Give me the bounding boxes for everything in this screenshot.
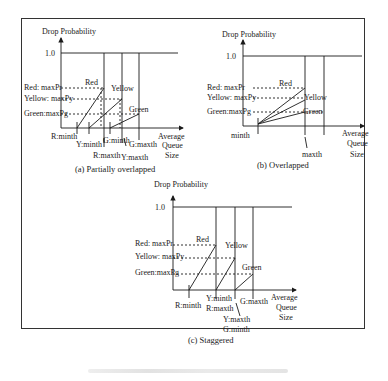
level-red-a: Red: maxPr xyxy=(24,83,62,92)
y-axis-label-a: Drop Probability xyxy=(42,27,96,36)
x-label-g-minth-c: G:minth xyxy=(223,325,250,334)
x-label-g-maxth-c: G:maxth xyxy=(240,297,268,306)
x-axis-label-a-3: Size xyxy=(165,151,179,160)
y-tick-b: 1.0 xyxy=(226,52,236,61)
x-label-r-minth-c: R:minth xyxy=(175,301,201,310)
curve-yellow-a: Yellow xyxy=(111,84,134,93)
y-tick-a: 1.0 xyxy=(45,49,55,58)
y-axis-label-b: Drop Probability xyxy=(222,30,276,39)
x-axis-label-a-1: Average xyxy=(158,132,185,141)
level-yellow-b: Yellow: maxPy xyxy=(207,93,256,102)
level-green-a: Green:maxPg xyxy=(24,109,68,118)
x-axis-label-c-3: Size xyxy=(279,313,293,322)
curve-green-a: Green xyxy=(129,105,149,114)
x-label-y-maxth-c: Y:maxth xyxy=(223,315,250,324)
curve-red-a: Red xyxy=(85,78,98,87)
x-label-y-minth-c: Y:minth xyxy=(206,294,232,303)
x-label-r-minth-a: R:minth xyxy=(51,132,77,141)
curve-yellow-b: Yellow xyxy=(304,93,327,102)
caption-c: (c) Staggered xyxy=(188,335,234,345)
x-label-r-maxth-a: R:maxth xyxy=(93,151,121,160)
x-axis-label-c-2: Queue xyxy=(276,303,297,312)
curve-red-c: Red xyxy=(196,235,209,244)
y-axis-label-c: Drop Probability xyxy=(154,180,208,189)
level-green-c: Green:maxPg xyxy=(135,268,179,277)
caption-b: (b) Overlapped xyxy=(257,160,309,170)
level-yellow-c: Yellow: maxPy xyxy=(135,252,184,261)
x-axis-label-a-2: Queue xyxy=(162,141,183,150)
level-red-c: Red: maxPr xyxy=(135,239,173,248)
x-label-r-maxth-c: R:maxth xyxy=(206,304,234,313)
x-axis-label-c-1: Average xyxy=(271,293,298,302)
curve-yellow-c: Yellow xyxy=(225,241,248,250)
x-axis-label-b-3: Size xyxy=(350,150,364,159)
curve-green-c: Green xyxy=(242,263,262,272)
x-label-g-maxth-a: G:maxth xyxy=(129,140,157,149)
curve-red-b: Red xyxy=(279,79,292,88)
figure-caption-illegible xyxy=(88,369,288,373)
x-label-y-minth-a: Y:minth xyxy=(76,140,102,149)
level-red-b: Red: maxPr xyxy=(207,83,245,92)
x-label-y-maxth-a: Y:maxth xyxy=(121,153,148,162)
y-tick-c: 1.0 xyxy=(155,203,165,212)
level-yellow-a: Yellow: maxPy xyxy=(24,94,73,103)
level-green-b: Green:maxPg xyxy=(207,107,251,116)
x-axis-label-b-1: Average xyxy=(342,129,369,138)
curve-green-b: Green xyxy=(303,107,323,116)
x-label-g-minth-a: G:minth xyxy=(103,136,130,145)
caption-a: (a) Partially overlapped xyxy=(75,164,156,174)
x-label-minth-b: minth xyxy=(231,131,250,140)
x-label-maxth-b: maxth xyxy=(302,150,322,159)
x-axis-label-b-2: Queue xyxy=(347,139,368,148)
red-drop-probability-diagram: Drop Probability 1.0 Red: maxPr Yellow: … xyxy=(0,0,388,381)
